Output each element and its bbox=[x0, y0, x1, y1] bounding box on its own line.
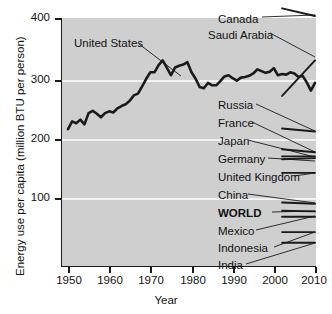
y-axis-title: Energy use per capita (million BTU per p… bbox=[14, 36, 26, 276]
gridline-300 bbox=[61, 80, 316, 82]
gridline-200 bbox=[61, 139, 316, 141]
x-tick-1980 bbox=[192, 267, 194, 273]
y-tick-label-400: 400 bbox=[31, 12, 50, 24]
leader-line-canada bbox=[262, 15, 315, 17]
y-tick-400 bbox=[55, 18, 61, 20]
annotation-japan: Japan bbox=[218, 136, 249, 148]
x-tick-2010 bbox=[315, 267, 317, 273]
y-tick-label-200: 200 bbox=[31, 133, 50, 145]
x-tick-label-1990: 1990 bbox=[221, 275, 247, 287]
y-tick-300 bbox=[55, 80, 61, 82]
x-tick-label-1960: 1960 bbox=[97, 275, 123, 287]
annotation-mexico: Mexico bbox=[218, 226, 254, 238]
annotation-united-kingdom: United Kingdom bbox=[218, 172, 300, 184]
x-axis-title: Year bbox=[0, 294, 332, 306]
annotation-france: France bbox=[218, 118, 254, 130]
gridline-100 bbox=[61, 198, 316, 200]
annotation-canada: Canada bbox=[218, 14, 258, 26]
y-tick-label-300: 300 bbox=[31, 74, 50, 86]
x-tick-2000 bbox=[274, 267, 276, 273]
annotation-russia: Russia bbox=[218, 100, 253, 112]
annotation-germany: Germany bbox=[218, 154, 265, 166]
series-line-canada bbox=[282, 8, 315, 16]
x-tick-label-1970: 1970 bbox=[138, 275, 164, 287]
annotation-indonesia: Indonesia bbox=[218, 243, 268, 255]
x-tick-1960 bbox=[109, 267, 111, 273]
y-tick-200 bbox=[55, 139, 61, 141]
annotation-india: India bbox=[218, 260, 243, 272]
x-tick-label-1980: 1980 bbox=[180, 275, 206, 287]
energy-use-per-capita-chart: 400 300 200 100 1950 1960 1970 1980 1990… bbox=[0, 0, 332, 314]
plot-area bbox=[61, 18, 316, 267]
annotation-united-states: United States bbox=[74, 38, 143, 50]
annotation-saudi-arabia: Saudi Arabia bbox=[208, 30, 273, 42]
annotation-world: WORLD bbox=[218, 208, 261, 220]
x-tick-1950 bbox=[68, 267, 70, 273]
y-tick-100 bbox=[55, 198, 61, 200]
annotation-china: China bbox=[218, 190, 248, 202]
x-tick-label-2010: 2010 bbox=[301, 275, 327, 287]
x-tick-label-2000: 2000 bbox=[262, 275, 288, 287]
x-tick-label-1950: 1950 bbox=[56, 275, 82, 287]
x-tick-1970 bbox=[150, 267, 152, 273]
y-tick-label-100: 100 bbox=[31, 192, 50, 204]
